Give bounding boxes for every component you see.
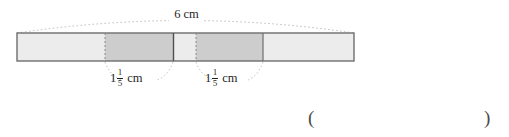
total-span-arc — [17, 21, 354, 34]
bar-segment-light-3 — [263, 33, 354, 61]
numerator-left: 1 — [117, 68, 124, 77]
total-length-text: 6 cm — [169, 8, 204, 21]
denominator-left: 5 — [117, 79, 124, 88]
unit-right: cm — [222, 72, 237, 85]
mixed-number-left: 1 1 5 cm — [110, 68, 143, 88]
answer-blank-field[interactable] — [318, 106, 482, 130]
numerator-right: 1 — [212, 68, 219, 77]
fraction-right: 1 5 — [212, 68, 219, 88]
whole-part-left: 1 — [110, 72, 116, 85]
leader-left-end — [157, 62, 173, 80]
fraction-left: 1 5 — [117, 68, 124, 88]
unit-left: cm — [127, 72, 142, 85]
answer-open-paren: ( — [308, 108, 314, 127]
mixed-number-right: 1 1 5 cm — [205, 68, 238, 88]
segment-label-left: 1 1 5 cm — [110, 68, 143, 88]
denominator-right: 5 — [212, 79, 219, 88]
whole-part-right: 1 — [205, 72, 211, 85]
bar-segment-light-2 — [174, 33, 196, 61]
total-length-label: 6 cm — [0, 8, 509, 21]
answer-close-paren: ) — [484, 108, 490, 127]
bar-segment-dark-1 — [105, 33, 173, 61]
leader-right-end — [248, 62, 263, 80]
bar-segment-light-1 — [17, 33, 105, 61]
fraction-bar-diagram: 6 cm 1 1 5 cm 1 1 5 cm ( ) — [0, 0, 509, 137]
segment-label-right: 1 1 5 cm — [205, 68, 238, 88]
bar-segment-dark-2 — [196, 33, 263, 61]
